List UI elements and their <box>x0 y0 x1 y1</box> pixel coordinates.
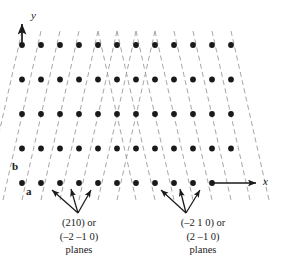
lattice-vector-b-label: b <box>12 161 18 172</box>
figure-root: y x b a (210) or (–2 –1 0) planes (–2 1 … <box>0 0 282 274</box>
lattice-row <box>19 180 215 186</box>
y-axis-label: y <box>31 10 36 21</box>
caption-right-planes: (–2 1 0) or (2 –1 0) planes <box>142 216 264 257</box>
axis-arrows <box>22 24 256 183</box>
caption-left-line3: planes <box>20 243 138 257</box>
lattice-row <box>19 42 234 48</box>
caption-left-planes: (210) or (–2 –1 0) planes <box>20 216 138 257</box>
lattice-row <box>19 77 234 83</box>
lattice-row <box>19 111 234 117</box>
lattice-dot-grid <box>19 42 234 186</box>
x-axis-label: x <box>263 176 268 187</box>
caption-left-line1: (210) or <box>20 216 138 230</box>
caption-right-line2: (2 –1 0) <box>142 230 264 244</box>
planes-right-family <box>98 31 269 200</box>
pointer-arrows-left <box>52 189 91 213</box>
lattice-row <box>19 146 234 152</box>
caption-left-line2: (–2 –1 0) <box>20 230 138 244</box>
caption-right-line3: planes <box>142 243 264 257</box>
caption-right-line1: (–2 1 0) or <box>142 216 264 230</box>
pointer-arrows-right <box>161 189 200 213</box>
lattice-vector-a-label: a <box>26 186 32 197</box>
